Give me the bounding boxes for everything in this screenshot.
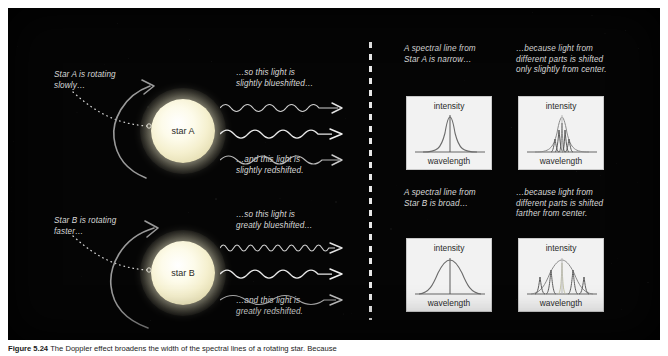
star-a-light-waves [220, 96, 350, 176]
starfield-speck [11, 187, 12, 188]
starfield-speck [591, 15, 592, 16]
starfield-speck [621, 309, 622, 310]
components-a-note: …because light from different parts is s… [516, 44, 644, 76]
star-b-label: star B [140, 268, 226, 278]
starfield-speck [625, 30, 626, 31]
starfield-speck [189, 39, 190, 40]
starfield-speck [511, 127, 512, 128]
starfield-speck [390, 228, 391, 229]
starfield-speck [267, 178, 268, 179]
caption-text: The Doppler effect broadens the width of… [50, 344, 336, 353]
figure-caption: Figure 5.24 The Doppler effect broadens … [8, 344, 648, 356]
starfield-speck [404, 290, 405, 291]
starfield-speck [396, 185, 397, 186]
starfield-speck [13, 141, 14, 142]
starfield-speck [311, 200, 312, 201]
starfield-speck [427, 219, 428, 220]
narrow-single-plot [407, 97, 493, 171]
spectral-line-a-note: A spectral line from Star A is narrow… [404, 44, 524, 65]
starfield-speck [29, 238, 30, 239]
diagram-panel: Star A is rotating slowly… star A …so th… [8, 8, 660, 340]
panel-divider [369, 42, 372, 320]
broad-components-plot [519, 239, 605, 313]
starfield-speck [104, 64, 105, 65]
star-a-body: star A [140, 88, 226, 174]
graph-broad-components: intensity wavelength [518, 238, 604, 312]
starfield-speck [215, 198, 216, 199]
starfield-speck [464, 80, 465, 81]
components-b-note: …because light from different parts is s… [516, 188, 644, 220]
starfield-speck [647, 282, 649, 284]
starfield-speck [211, 61, 212, 62]
starfield-speck [604, 33, 605, 34]
starfield-speck [373, 107, 374, 108]
graph-narrow-single: intensity wavelength [406, 96, 492, 170]
starfield-speck [128, 58, 129, 59]
starfield-speck [600, 175, 601, 176]
star-a-blueshift-note: …so this light is slightly blueshifted… [236, 68, 356, 89]
starfield-speck [11, 211, 12, 212]
starfield-speck [17, 46, 18, 47]
figure-stage: Star A is rotating slowly… star A …so th… [0, 0, 668, 356]
broad-single-plot [407, 239, 493, 313]
starfield-speck [616, 163, 617, 164]
starfield-speck [617, 258, 618, 259]
star-b-blueshift-note: …so this light is greatly blueshifted… [236, 210, 356, 231]
graph-broad-single: intensity wavelength [406, 238, 492, 312]
spectral-line-b-note: A spectral line from Star B is broad… [404, 188, 524, 209]
narrow-components-plot [519, 97, 605, 171]
star-a-label: star A [140, 126, 226, 136]
starfield-speck [611, 263, 612, 264]
graph-narrow-components: intensity wavelength [518, 96, 604, 170]
starfield-speck [335, 201, 336, 202]
starfield-speck [637, 182, 638, 183]
star-b-body: star B [140, 230, 226, 316]
starfield-speck [279, 198, 280, 199]
starfield-speck [188, 212, 189, 213]
star-b-light-waves [220, 236, 350, 316]
figure-number: Figure 5.24 [8, 344, 48, 353]
starfield-speck [117, 23, 118, 24]
